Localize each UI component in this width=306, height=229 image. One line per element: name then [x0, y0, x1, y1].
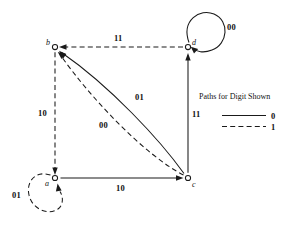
- edge-label-loop-bottom-left: 01: [12, 190, 21, 200]
- state-transition-diagram: b d a c 11 10 10 11 01 00 00 01 Paths fo…: [0, 0, 306, 229]
- node-c[interactable]: [185, 175, 190, 180]
- legend-title: Paths for Digit Shown: [199, 92, 270, 101]
- edge-label-bottom: 10: [116, 183, 125, 193]
- node-d[interactable]: [185, 44, 190, 49]
- edge-label-right: 11: [192, 109, 200, 119]
- node-a[interactable]: [52, 175, 57, 180]
- edge-label-top: 11: [114, 33, 122, 43]
- node-label-a: a: [45, 179, 49, 188]
- node-label-d: d: [192, 38, 196, 47]
- edge-c-to-b-solid: [59, 51, 184, 174]
- edge-a-to-c: [61, 175, 184, 180]
- edge-c-to-b-dashed: [58, 52, 184, 175]
- edge-b-to-a: [52, 52, 57, 175]
- edge-label-diagonal-solid: 01: [135, 92, 144, 102]
- legend-value-solid: 0: [271, 111, 275, 121]
- node-label-b: b: [46, 38, 50, 47]
- node-b[interactable]: [52, 44, 57, 49]
- edge-label-loop-top-right: 00: [227, 22, 236, 32]
- edge-d-to-b: [59, 44, 183, 49]
- legend-value-dashed: 1: [271, 122, 275, 132]
- edge-d-self-loop: [187, 12, 225, 53]
- edge-label-diagonal-dashed: 00: [99, 120, 108, 130]
- edge-label-left: 10: [38, 108, 47, 118]
- node-label-c: c: [192, 180, 196, 189]
- edge-c-to-d: [185, 53, 190, 173]
